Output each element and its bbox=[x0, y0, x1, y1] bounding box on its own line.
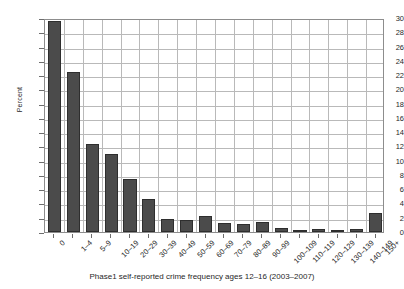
x-tick-mark bbox=[299, 234, 300, 238]
y-tick-mark bbox=[39, 48, 44, 49]
bar bbox=[180, 220, 193, 232]
x-tick-mark bbox=[186, 234, 187, 238]
y-tick-label: 24 bbox=[368, 58, 404, 66]
bar bbox=[123, 179, 136, 232]
x-tick-mark bbox=[337, 234, 338, 238]
x-axis: 01–45–910–1920–2930–3940–4950–5960–6970–… bbox=[44, 234, 384, 272]
bar bbox=[218, 223, 231, 232]
bar bbox=[293, 230, 306, 232]
bar bbox=[312, 229, 325, 232]
x-tick-label-text: 20–29 bbox=[139, 239, 159, 259]
bar bbox=[48, 21, 61, 232]
y-tick-mark bbox=[39, 62, 44, 63]
x-tick-label-text: 80–89 bbox=[252, 239, 272, 259]
bar bbox=[67, 72, 80, 232]
bar bbox=[161, 219, 174, 232]
x-tick-label-text: 30–39 bbox=[158, 239, 178, 259]
x-tick-label-text: 60–69 bbox=[215, 239, 235, 259]
y-tick-mark bbox=[39, 119, 44, 120]
x-tick-label: 60–69 bbox=[215, 239, 235, 259]
x-tick-mark bbox=[148, 234, 149, 238]
x-tick-mark bbox=[280, 234, 281, 238]
bar bbox=[331, 230, 344, 232]
y-tick-label: 20 bbox=[368, 86, 404, 94]
x-tick-label: 20–29 bbox=[139, 239, 159, 259]
y-tick-label: 18 bbox=[368, 101, 404, 109]
x-tick-mark bbox=[110, 234, 111, 238]
y-tick-mark bbox=[39, 105, 44, 106]
x-tick-mark bbox=[205, 234, 206, 238]
x-tick-label: 1–4 bbox=[80, 239, 95, 254]
x-tick-mark bbox=[356, 234, 357, 238]
bar bbox=[86, 144, 99, 232]
x-tick-label: 70–79 bbox=[234, 239, 254, 259]
bar bbox=[350, 229, 363, 232]
y-axis-title: Percent bbox=[16, 65, 23, 135]
y-tick-mark bbox=[39, 133, 44, 134]
y-tick-label: 10 bbox=[368, 158, 404, 166]
x-axis-title: Phase1 self-reported crime frequency age… bbox=[0, 272, 404, 281]
x-tick-label: 40–49 bbox=[177, 239, 197, 259]
x-tick-mark bbox=[223, 234, 224, 238]
bars-group bbox=[45, 20, 383, 232]
x-tick-label: 5–9 bbox=[99, 239, 114, 254]
x-tick-mark bbox=[72, 234, 73, 238]
y-tick-label: 28 bbox=[368, 29, 404, 37]
y-tick-mark bbox=[39, 90, 44, 91]
bar bbox=[275, 228, 288, 232]
plot-area bbox=[44, 19, 384, 233]
x-tick-label-text: 5–9 bbox=[99, 239, 114, 254]
x-tick-mark bbox=[129, 234, 130, 238]
x-tick-label-text: 1–4 bbox=[80, 239, 95, 254]
y-tick-mark bbox=[39, 147, 44, 148]
y-tick-label: 8 bbox=[368, 172, 404, 180]
x-tick-label-text: 70–79 bbox=[234, 239, 254, 259]
x-tick-label: 90–99 bbox=[271, 239, 291, 259]
x-tick-mark bbox=[375, 234, 376, 238]
y-tick-label: 2 bbox=[368, 215, 404, 223]
x-tick-label-text: 0 bbox=[59, 239, 68, 248]
y-tick-mark bbox=[39, 76, 44, 77]
y-tick-mark bbox=[39, 19, 44, 20]
y-tick-label: 6 bbox=[368, 186, 404, 194]
x-tick-label-text: 90–99 bbox=[271, 239, 291, 259]
x-tick-label-text: 50–59 bbox=[196, 239, 216, 259]
bar bbox=[105, 154, 118, 232]
y-tick-mark bbox=[39, 219, 44, 220]
x-tick-label: 80–89 bbox=[252, 239, 272, 259]
bar bbox=[256, 222, 269, 232]
y-tick-mark bbox=[39, 190, 44, 191]
y-tick-label: 12 bbox=[368, 143, 404, 151]
y-tick-label: 14 bbox=[368, 129, 404, 137]
bar-chart: Percent 024681012141618202224262830 01–4… bbox=[0, 0, 404, 289]
bar bbox=[237, 224, 250, 232]
x-tick-mark bbox=[91, 234, 92, 238]
x-tick-label: 50–59 bbox=[196, 239, 216, 259]
x-tick-mark bbox=[53, 234, 54, 238]
bar bbox=[199, 216, 212, 232]
y-tick-mark bbox=[39, 176, 44, 177]
x-tick-mark bbox=[167, 234, 168, 238]
y-tick-label: 4 bbox=[368, 200, 404, 208]
x-tick-label: 0 bbox=[59, 239, 68, 248]
x-tick-label: 30–39 bbox=[158, 239, 178, 259]
y-tick-label: 16 bbox=[368, 115, 404, 123]
y-tick-mark bbox=[39, 162, 44, 163]
x-tick-mark bbox=[242, 234, 243, 238]
y-tick-label: 26 bbox=[368, 44, 404, 52]
x-tick-mark bbox=[261, 234, 262, 238]
x-tick-label-text: 40–49 bbox=[177, 239, 197, 259]
y-tick-mark bbox=[39, 33, 44, 34]
x-tick-label: 10–19 bbox=[120, 239, 140, 259]
y-tick-mark bbox=[39, 204, 44, 205]
y-tick-label: 22 bbox=[368, 72, 404, 80]
y-tick-label: 30 bbox=[368, 15, 404, 23]
bar bbox=[142, 199, 155, 232]
x-tick-label-text: 10–19 bbox=[120, 239, 140, 259]
x-tick-mark bbox=[318, 234, 319, 238]
